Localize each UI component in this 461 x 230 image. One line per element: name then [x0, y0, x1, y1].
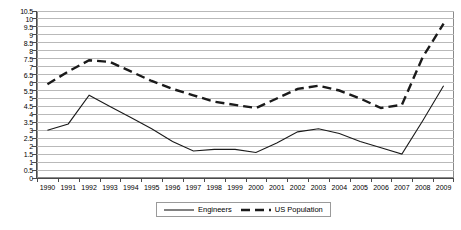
- plot-area: [37, 11, 454, 178]
- x-axis-tick-mark: [120, 178, 121, 182]
- x-axis-tick-label: 1994: [123, 184, 139, 192]
- x-axis-tick-mark: [37, 178, 38, 182]
- x-axis-tick-mark: [58, 178, 59, 182]
- y-axis-tick-mark: [32, 18, 36, 19]
- x-axis-tick-label: 2000: [248, 184, 264, 192]
- y-axis-tick-mark: [32, 82, 36, 83]
- x-axis-tick-mark: [225, 178, 226, 182]
- x-axis-tick-mark: [308, 178, 309, 182]
- y-axis-tick-mark: [32, 58, 36, 59]
- line-chart: 10.5109.598.587.576.565.554.543.532.521.…: [0, 0, 461, 230]
- x-axis-tick-mark: [100, 178, 101, 182]
- legend-item-engineers[interactable]: Engineers: [164, 205, 232, 214]
- x-axis-tick-mark: [391, 178, 392, 182]
- x-axis-tick-label: 1995: [144, 184, 160, 192]
- x-axis-tick-label: 1996: [165, 184, 181, 192]
- x-axis-tick-label: 2005: [352, 184, 368, 192]
- x-axis-tick-label: 2007: [394, 184, 410, 192]
- y-axis-tick-mark: [32, 26, 36, 27]
- legend-label: Engineers: [198, 205, 232, 214]
- x-axis-tick-label: 1991: [60, 184, 76, 192]
- x-axis-tick-label: 1997: [186, 184, 202, 192]
- x-axis-tick-label: 1999: [227, 184, 243, 192]
- legend-label: US Population: [275, 205, 323, 214]
- x-axis-tick-label: 1990: [40, 184, 56, 192]
- x-axis-tick-label: 2001: [269, 184, 285, 192]
- x-axis-tick-label: 2002: [290, 184, 306, 192]
- y-axis-tick-mark: [32, 154, 36, 155]
- legend-item-us-population[interactable]: US Population: [241, 205, 323, 214]
- y-axis-tick-mark: [32, 138, 36, 139]
- y-axis-tick-mark: [32, 114, 36, 115]
- y-axis-tick-mark: [32, 178, 36, 179]
- y-axis-tick-mark: [32, 122, 36, 123]
- y-axis-tick-mark: [32, 130, 36, 131]
- y-axis-tick-mark: [32, 146, 36, 147]
- x-axis-tick-mark: [453, 178, 454, 182]
- x-axis-tick-mark: [183, 178, 184, 182]
- x-axis-tick-mark: [433, 178, 434, 182]
- y-axis-tick-mark: [32, 50, 36, 51]
- x-axis-tick-mark: [329, 178, 330, 182]
- x-axis-tick-mark: [79, 178, 80, 182]
- y-axis-tick-mark: [32, 74, 36, 75]
- x-axis-tick-mark: [162, 178, 163, 182]
- x-axis-tick-mark: [204, 178, 205, 182]
- x-axis-tick-mark: [350, 178, 351, 182]
- series-layer: [37, 11, 454, 178]
- series-line-us-population: [47, 24, 443, 108]
- y-axis-tick-mark: [32, 170, 36, 171]
- y-axis-tick-mark: [32, 66, 36, 67]
- x-axis-tick-label: 1998: [206, 184, 222, 192]
- series-line-engineers: [47, 86, 443, 154]
- x-axis-tick-label: 2004: [332, 184, 348, 192]
- x-axis-tick-mark: [412, 178, 413, 182]
- y-axis-tick-mark: [32, 162, 36, 163]
- chart-legend: EngineersUS Population: [156, 202, 331, 217]
- x-axis-tick-label: 1993: [102, 184, 118, 192]
- x-axis-tick-label: 2008: [415, 184, 431, 192]
- y-axis-tick-mark: [32, 11, 36, 12]
- y-axis-tick-mark: [32, 98, 36, 99]
- y-axis-tick-mark: [32, 106, 36, 107]
- legend-swatch-solid-line-icon: [164, 206, 194, 214]
- legend-swatch-dashed-line-icon: [241, 206, 271, 214]
- x-axis-tick-mark: [266, 178, 267, 182]
- x-axis-tick-mark: [371, 178, 372, 182]
- x-axis-tick-label: 1992: [81, 184, 97, 192]
- y-axis-tick-mark: [32, 42, 36, 43]
- x-axis-tick-label: 2006: [373, 184, 389, 192]
- x-axis-tick-mark: [141, 178, 142, 182]
- x-axis: 1990199119921993199419951996199719981999…: [37, 178, 454, 200]
- y-axis-tick-mark: [32, 34, 36, 35]
- x-axis-tick-label: 2003: [311, 184, 327, 192]
- x-axis-tick-mark: [287, 178, 288, 182]
- y-axis-tick-mark: [32, 90, 36, 91]
- x-axis-tick-label: 2009: [436, 184, 452, 192]
- x-axis-tick-mark: [246, 178, 247, 182]
